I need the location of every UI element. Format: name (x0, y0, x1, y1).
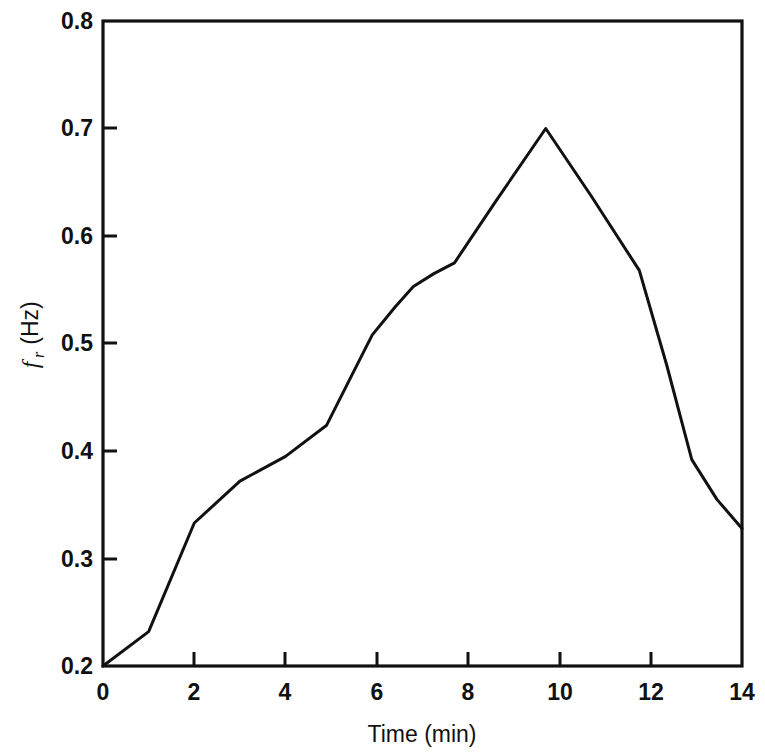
y-axis-ticks (103, 128, 117, 559)
y-axis-title-subscript: r (30, 351, 47, 358)
x-axis-ticks (194, 652, 651, 666)
y-axis-title-symbol: f (17, 358, 43, 368)
x-axis-tick-labels: 0 2 4 6 8 10 12 14 (97, 679, 755, 705)
x-tick-label-6: 6 (371, 679, 384, 705)
x-tick-label-0: 0 (97, 679, 110, 705)
y-axis-title-units: (Hz) (17, 301, 43, 344)
x-tick-label-4: 4 (279, 679, 292, 705)
y-tick-label-0.7: 0.7 (61, 115, 93, 141)
y-tick-label-0.4: 0.4 (61, 438, 93, 464)
y-axis-title: f r (Hz) (17, 301, 47, 368)
x-tick-label-8: 8 (462, 679, 475, 705)
x-tick-label-12: 12 (638, 679, 664, 705)
x-tick-label-2: 2 (188, 679, 201, 705)
y-axis-tick-labels: 0.8 0.7 0.6 0.5 0.4 0.3 0.2 (61, 8, 93, 679)
chart-figure: 0.8 0.7 0.6 0.5 0.4 0.3 0.2 0 2 4 6 8 10… (0, 0, 765, 755)
y-tick-label-0.2: 0.2 (61, 653, 93, 679)
plot-frame (103, 21, 742, 666)
line-chart: 0.8 0.7 0.6 0.5 0.4 0.3 0.2 0 2 4 6 8 10… (0, 0, 765, 755)
x-tick-label-14: 14 (729, 679, 755, 705)
y-tick-label-0.5: 0.5 (61, 330, 93, 356)
y-tick-label-0.3: 0.3 (61, 546, 93, 572)
y-tick-label-0.8: 0.8 (61, 8, 93, 34)
data-line-fr (103, 129, 742, 667)
x-tick-label-10: 10 (547, 679, 573, 705)
x-axis-title: Time (min) (367, 721, 476, 747)
y-tick-label-0.6: 0.6 (61, 223, 93, 249)
